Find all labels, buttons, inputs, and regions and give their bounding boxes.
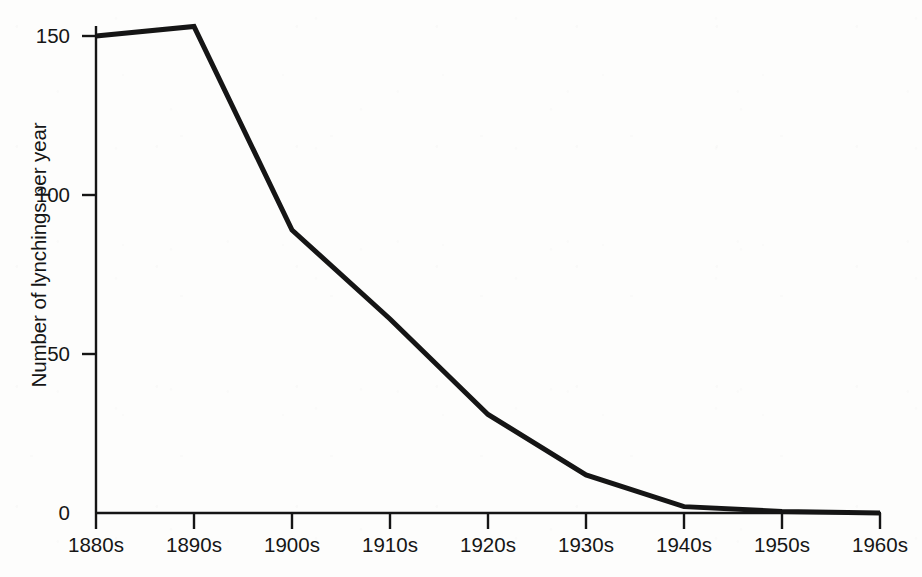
data-series-line — [96, 26, 880, 513]
x-tick-label-1890s: 1890s — [139, 534, 249, 556]
y-axis-ticks — [82, 36, 96, 354]
x-tick-label-1880s: 1880s — [41, 534, 151, 556]
x-tick-label-1920s: 1920s — [433, 534, 543, 556]
x-tick-label-1950s: 1950s — [727, 534, 837, 556]
x-tick-label-1930s: 1930s — [531, 534, 641, 556]
x-tick-label-1960s: 1960s — [825, 534, 922, 556]
x-axis-ticks — [96, 513, 880, 529]
y-axis-title: Number of lynchings per year — [22, 5, 56, 505]
x-tick-label-1900s: 1900s — [237, 534, 347, 556]
y-tick-label-150: 150 — [10, 26, 70, 47]
figure-container: Number of lynchings per year 150 100 50 … — [0, 0, 922, 577]
line-chart-plot — [0, 0, 922, 577]
y-tick-label-50: 50 — [10, 344, 70, 365]
x-tick-label-1940s: 1940s — [629, 534, 739, 556]
y-tick-label-0: 0 — [10, 503, 70, 524]
y-tick-label-100: 100 — [10, 185, 70, 206]
x-tick-label-1910s: 1910s — [335, 534, 445, 556]
